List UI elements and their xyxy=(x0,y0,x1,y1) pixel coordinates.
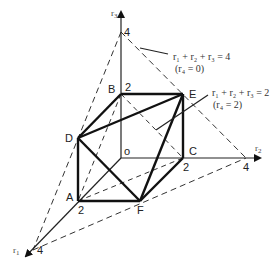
r1-axis xyxy=(26,158,121,256)
r1-tick-2: 2 xyxy=(78,204,84,216)
simplex-diagram: r3 r2 r1 4 2 2 4 2 4 o B E D C A F r₁ + … xyxy=(0,0,278,275)
plane-2-outline xyxy=(78,94,183,201)
r1-axis-label: r1 xyxy=(13,245,20,257)
plane-4-note: (r₄ = 0) xyxy=(175,63,204,75)
plane-2-equation: r₁ + r₂ + r₃ = 2 xyxy=(212,87,269,98)
hexagon-edges xyxy=(78,94,183,201)
r1-tick-4: 4 xyxy=(37,244,43,256)
origin-label: o xyxy=(124,145,130,157)
r3-axis-label: r3 xyxy=(111,8,118,20)
plane-2-note: (r₄ = 2) xyxy=(213,99,242,111)
plane-4-equation: r₁ + r₂ + r₃ = 4 xyxy=(173,51,230,62)
vertex-c-label: C xyxy=(189,145,197,157)
r2-tick-4: 4 xyxy=(243,161,249,173)
vertex-b-label: B xyxy=(108,83,115,95)
vertex-a-label: A xyxy=(66,191,74,203)
r2-tick-2: 2 xyxy=(183,161,189,173)
r3-tick-2: 2 xyxy=(125,81,131,93)
vertex-f-label: F xyxy=(137,204,144,216)
r2-axis-label: r2 xyxy=(255,143,262,155)
r3-tick-4: 4 xyxy=(124,26,130,38)
vertex-d-label: D xyxy=(65,132,73,144)
vertex-e-label: E xyxy=(189,88,196,100)
